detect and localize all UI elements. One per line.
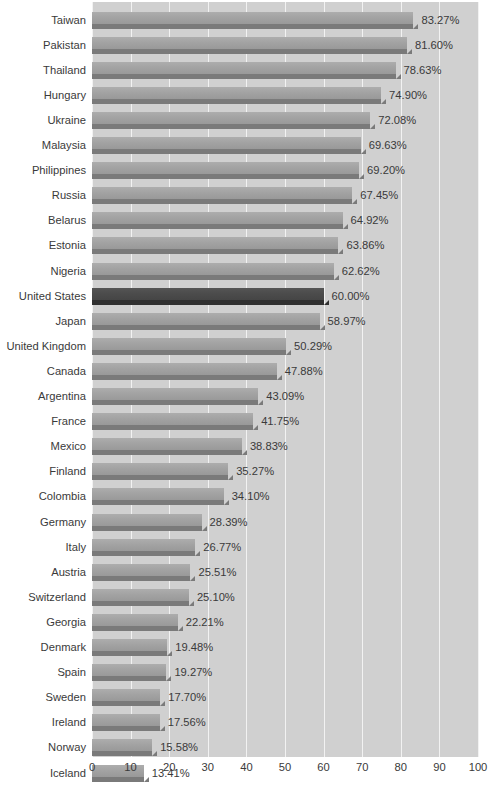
category-label: Colombia	[0, 484, 86, 509]
bar	[92, 363, 277, 380]
bar-shadow	[92, 149, 361, 154]
bar-row: Russia67.45%	[0, 183, 498, 208]
x-tick-label: 30	[188, 761, 228, 773]
bar-body	[92, 37, 407, 49]
value-label: 22.21%	[186, 610, 224, 635]
bar	[92, 614, 178, 631]
value-label: 60.00%	[332, 284, 370, 309]
bar-body	[92, 739, 152, 751]
bar-row: Spain19.27%	[0, 660, 498, 685]
value-label: 50.29%	[294, 334, 332, 359]
category-label: Malaysia	[0, 133, 86, 158]
category-label: Sweden	[0, 685, 86, 710]
bar-shadow	[92, 199, 352, 204]
bar-shadow	[92, 701, 160, 706]
category-label: Taiwan	[0, 8, 86, 33]
bar-shadow	[92, 74, 396, 79]
bar-body	[92, 137, 361, 149]
x-tick-label: 100	[458, 761, 498, 773]
bar-shadow	[92, 400, 258, 405]
bar-body	[92, 237, 338, 249]
value-label: 35.27%	[236, 459, 274, 484]
bar-body	[92, 614, 178, 626]
bar-body	[92, 388, 258, 400]
bar	[92, 87, 381, 104]
bar	[92, 62, 396, 79]
bar-body	[92, 438, 242, 450]
value-label: 19.27%	[174, 660, 212, 685]
bar	[92, 438, 242, 455]
value-label: 67.45%	[360, 183, 398, 208]
bar	[92, 463, 228, 480]
bar-row: Switzerland25.10%	[0, 585, 498, 610]
bar	[92, 388, 258, 405]
bar	[92, 539, 195, 556]
value-label: 34.10%	[232, 484, 270, 509]
bar-row: Argentina43.09%	[0, 384, 498, 409]
bar	[92, 187, 352, 204]
category-label: Belarus	[0, 208, 86, 233]
bar-body	[92, 363, 277, 375]
bar	[92, 288, 324, 305]
bar	[92, 112, 370, 129]
category-label: Estonia	[0, 233, 86, 258]
bar-shadow	[92, 275, 334, 280]
bar-row: Sweden17.70%	[0, 685, 498, 710]
bar	[92, 514, 202, 531]
x-axis: 0102030405060708090100	[0, 757, 498, 792]
category-label: Mexico	[0, 434, 86, 459]
bar	[92, 212, 343, 229]
bar-rows: Taiwan83.27%Pakistan81.60%Thailand78.63%…	[0, 0, 498, 792]
value-label: 43.09%	[266, 384, 304, 409]
bar-body	[92, 413, 253, 425]
bar	[92, 313, 320, 330]
bar-shadow	[92, 475, 228, 480]
bar-body	[92, 212, 343, 224]
bar-row: Thailand78.63%	[0, 58, 498, 83]
bar-shadow	[92, 300, 324, 305]
bar-body	[92, 87, 381, 99]
bar-row: Germany28.39%	[0, 510, 498, 535]
bar-body	[92, 187, 352, 199]
value-label: 69.63%	[369, 133, 407, 158]
bar-shadow	[92, 576, 190, 581]
bar-shadow	[92, 99, 381, 104]
value-label: 19.48%	[175, 635, 213, 660]
bar-row: Canada47.88%	[0, 359, 498, 384]
category-label: Ukraine	[0, 108, 86, 133]
value-label: 47.88%	[285, 359, 323, 384]
bar	[92, 739, 152, 756]
category-label: Georgia	[0, 610, 86, 635]
bar-shadow	[92, 676, 166, 681]
bar-row: United States60.00%	[0, 284, 498, 309]
bar	[92, 237, 338, 254]
bar-body	[92, 639, 167, 651]
bar-row: Pakistan81.60%	[0, 33, 498, 58]
bar-body	[92, 162, 359, 174]
bar-shadow	[92, 49, 407, 54]
bar-row: Ukraine72.08%	[0, 108, 498, 133]
value-label: 38.83%	[250, 434, 288, 459]
category-label: Argentina	[0, 384, 86, 409]
x-tick-label: 50	[265, 761, 305, 773]
value-label: 83.27%	[421, 8, 459, 33]
bar	[92, 639, 167, 656]
category-label: Finland	[0, 459, 86, 484]
bar-shadow	[92, 626, 178, 631]
bar-body	[92, 664, 166, 676]
value-label: 28.39%	[210, 510, 248, 535]
bar	[92, 263, 334, 280]
bar-body	[92, 689, 160, 701]
bar-shadow	[92, 425, 253, 430]
category-label: France	[0, 409, 86, 434]
bar-body	[92, 288, 324, 300]
category-label: Pakistan	[0, 33, 86, 58]
category-label: Russia	[0, 183, 86, 208]
bar-row: Italy26.77%	[0, 535, 498, 560]
bar-shadow	[92, 751, 152, 756]
bar-shadow	[92, 249, 338, 254]
bar-row: Finland35.27%	[0, 459, 498, 484]
category-label: Switzerland	[0, 585, 86, 610]
bar-shadow	[92, 124, 370, 129]
bar-shadow	[92, 224, 343, 229]
